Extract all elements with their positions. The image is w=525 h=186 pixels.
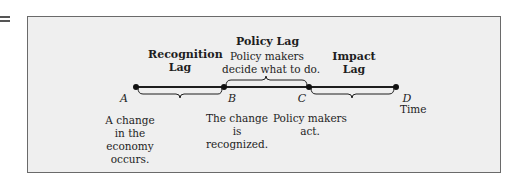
recognition-brace	[138, 88, 222, 98]
point-c-description: Policy makers act.	[270, 112, 350, 138]
policy-lag-title: Policy Lag	[236, 35, 298, 48]
point-a-description: A change in the economy occurs.	[98, 114, 162, 166]
policy-lag-description: Policy makers decide what to do.	[222, 50, 312, 76]
point-b-description: The change is recognized.	[204, 112, 270, 151]
recognition-lag-title: Recognition Lag	[148, 48, 212, 74]
time-axis-label: Time	[400, 103, 428, 116]
point-a-label: A	[118, 93, 130, 105]
policy-brace	[226, 76, 307, 86]
impact-brace	[311, 88, 394, 98]
impact-lag-title: Impact Lag	[332, 50, 376, 76]
point-b-label: B	[226, 93, 238, 105]
point-c-label: C	[296, 93, 308, 105]
timeline-diagram	[0, 0, 525, 186]
